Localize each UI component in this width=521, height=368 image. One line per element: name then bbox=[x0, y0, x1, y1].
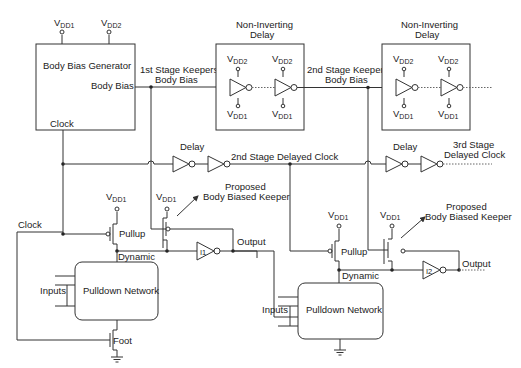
bbg-title: Body Bias Generator bbox=[43, 60, 131, 71]
stage1-domino-gate: Clock VDD1 Pullup Dynamic Pulldown Netwo… bbox=[17, 181, 300, 362]
svg-text:Delay: Delay bbox=[180, 141, 205, 152]
svg-text:Delay: Delay bbox=[415, 29, 440, 40]
inverter-icon bbox=[208, 156, 224, 172]
svg-text:Body Biased Keeper: Body Biased Keeper bbox=[203, 191, 290, 202]
svg-text:Pulldown Network: Pulldown Network bbox=[83, 285, 159, 296]
svg-text:I2: I2 bbox=[426, 267, 432, 276]
inverter-icon bbox=[421, 156, 437, 172]
svg-text:Pulldown Network: Pulldown Network bbox=[306, 304, 382, 315]
circuit-diagram: Body Bias Generator Body Bias Clock VDD1… bbox=[0, 0, 521, 368]
inverter-icon bbox=[173, 156, 189, 172]
svg-text:Clock: Clock bbox=[18, 219, 42, 230]
delay1-title-line2: Delay bbox=[250, 29, 275, 40]
svg-text:VDD1: VDD1 bbox=[328, 209, 348, 221]
stage2-bias-label-line2: Body Bias bbox=[325, 74, 368, 85]
bbg-vdd1-label: VDD1 bbox=[54, 17, 74, 29]
svg-text:VDD1: VDD1 bbox=[106, 191, 126, 203]
stage2-delayed-clock-label: 2nd Stage Delayed Clock bbox=[231, 151, 338, 162]
inverter-icon bbox=[386, 156, 402, 172]
svg-text:Inputs: Inputs bbox=[262, 304, 288, 315]
svg-text:Pullup: Pullup bbox=[119, 228, 145, 239]
svg-text:Body Biased Keeper: Body Biased Keeper bbox=[425, 211, 512, 222]
svg-text:Foot: Foot bbox=[113, 335, 132, 346]
clock-delay-1: Delay bbox=[173, 141, 230, 172]
svg-text:Output: Output bbox=[237, 236, 266, 247]
non-inverting-delay-2: Non-Inverting Delay VDD2 VDD2 VDD1 VDD1 bbox=[382, 19, 492, 130]
svg-text:Output: Output bbox=[462, 258, 491, 269]
bbg-body-bias-label: Body Bias bbox=[91, 80, 134, 91]
bbg-vdd2-label: VDD2 bbox=[101, 17, 121, 29]
stage1-bias-label-line2: Body Bias bbox=[155, 74, 198, 85]
svg-text:Dynamic: Dynamic bbox=[342, 270, 379, 281]
bbg-clock-label: Clock bbox=[50, 118, 74, 129]
stage2-domino-gate: VDD1 Pullup Dynamic Pulldown Network Inp… bbox=[262, 164, 512, 355]
svg-text:I1: I1 bbox=[200, 248, 206, 257]
svg-text:VDD1: VDD1 bbox=[380, 209, 400, 221]
svg-text:Delay: Delay bbox=[393, 141, 418, 152]
svg-text:Dynamic: Dynamic bbox=[118, 251, 155, 262]
body-bias-generator: Body Bias Generator Body Bias Clock VDD1… bbox=[36, 17, 135, 130]
vdd2-terminal-icon bbox=[107, 30, 111, 34]
svg-text:Pullup: Pullup bbox=[341, 246, 367, 257]
svg-text:Inputs: Inputs bbox=[40, 285, 66, 296]
stage3-clock-label-line2: Delayed Clock bbox=[444, 149, 505, 160]
vdd1-terminal-icon bbox=[60, 30, 64, 34]
svg-text:VDD1: VDD1 bbox=[156, 191, 176, 203]
